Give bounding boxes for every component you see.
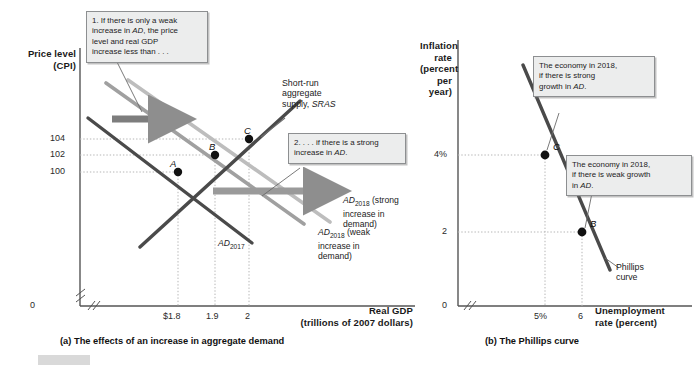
callout1-line2-pre: increase in bbox=[92, 26, 132, 35]
ad-strong-rest2: increase in bbox=[343, 209, 399, 219]
callout2-line2: increase in AD. bbox=[294, 148, 400, 158]
callout-weak-increase: 1. If there is only a weak increase in A… bbox=[86, 11, 208, 63]
callout3-line3: growth in AD. bbox=[539, 82, 649, 92]
label-phillips-curve: Phillips curve bbox=[616, 262, 644, 283]
x-title-line1: Real GDP bbox=[268, 305, 413, 317]
ad-weak-rest3: demand) bbox=[318, 251, 370, 261]
b-y-title-line3: (percent bbox=[420, 63, 452, 75]
leader-sras bbox=[261, 118, 285, 137]
callout3-line3-it: AD bbox=[573, 82, 584, 91]
point-a bbox=[174, 168, 182, 176]
point-c bbox=[245, 135, 253, 143]
ad-weak-rest2: increase in bbox=[318, 241, 370, 251]
label-point-a: A bbox=[170, 158, 176, 169]
callout1-line2: increase in AD, the price bbox=[92, 26, 202, 36]
callout1-line2-post: , the price bbox=[143, 26, 178, 35]
x-title-line2: (trillions of 2007 dollars) bbox=[268, 317, 413, 329]
ad2017-it: AD bbox=[218, 238, 230, 248]
callout4-line1: The economy in 2018, bbox=[572, 160, 686, 170]
caption-a-text: The effects of an increase in aggregate … bbox=[74, 336, 284, 346]
panel-b-x-axis-title: Unemployment rate (percent) bbox=[595, 305, 695, 328]
b-y-title-line1: Inflation bbox=[420, 40, 452, 52]
caption-a-lead: (a) bbox=[60, 336, 71, 346]
point-b-b bbox=[578, 228, 587, 237]
sras-line3-pre: supply, bbox=[282, 99, 312, 109]
point-b bbox=[211, 151, 219, 159]
callout1-line1: 1. If there is only a weak bbox=[92, 16, 202, 26]
callout1-line3: level and real GDP bbox=[92, 37, 202, 47]
x-tick-19: 1.9 bbox=[206, 311, 219, 321]
panel-aggregate-demand: Price level (CPI) Real GDP (trillions of… bbox=[0, 0, 420, 372]
b-x-tick-5: 5% bbox=[534, 311, 547, 321]
origin-label-b: 0 bbox=[442, 300, 447, 310]
b-x-title-line1: Unemployment bbox=[595, 305, 695, 317]
ad-weak-line1: AD2018 (weak bbox=[318, 227, 370, 241]
curve-ad2017 bbox=[88, 118, 252, 243]
sras-line1: Short-run bbox=[282, 78, 336, 88]
y-tick-102: 102 bbox=[50, 149, 65, 159]
ad2017-sub: 2017 bbox=[230, 243, 245, 250]
panel-a-x-axis-title: Real GDP (trillions of 2007 dollars) bbox=[268, 305, 413, 328]
b-y-tick-2: 2 bbox=[442, 226, 447, 236]
callout2-line2-pre: increase in bbox=[294, 148, 334, 157]
caption-panel-a: (a) The effects of an increase in aggreg… bbox=[60, 336, 284, 346]
origin-label-a: 0 bbox=[30, 300, 35, 310]
callout3-line3-pre: growth in bbox=[539, 82, 573, 91]
point-c-b bbox=[541, 151, 550, 160]
callout3-line1: The economy in 2018, bbox=[539, 61, 649, 71]
y-title-line2: (CPI) bbox=[14, 60, 76, 72]
label-ad2018-strong: AD2018 (strong increase in demand) bbox=[343, 195, 399, 229]
axes-a bbox=[76, 48, 415, 310]
label-ad2018-weak: AD2018 (weak increase in demand) bbox=[318, 227, 370, 261]
b-y-tick-4: 4% bbox=[434, 149, 447, 159]
sras-line3: supply, SRAS bbox=[282, 99, 336, 109]
ad-weak-it: AD bbox=[318, 227, 330, 237]
b-y-title-line2: rate bbox=[420, 52, 452, 64]
sras-line2: aggregate bbox=[282, 88, 336, 98]
ad-strong-sub: 2018 bbox=[355, 200, 370, 207]
b-x-title-line2: rate (percent) bbox=[595, 317, 695, 329]
panel-b-y-axis-title: Inflation rate (percent per year) bbox=[420, 40, 452, 98]
callout3-line2: if there is strong bbox=[539, 71, 649, 81]
ad-strong-line1: AD2018 (strong bbox=[343, 195, 399, 209]
callout-strong-increase: 2. . . . if there is a strong increase i… bbox=[288, 133, 406, 164]
caption-b-text: The Phillips curve bbox=[499, 336, 579, 346]
panel-a-y-axis-title: Price level (CPI) bbox=[14, 48, 76, 71]
caption-panel-b: (b) The Phillips curve bbox=[485, 336, 579, 346]
callout4-line3-it: AD bbox=[580, 181, 591, 190]
caption-b-lead: (b) bbox=[485, 336, 497, 346]
x-tick-2: 2 bbox=[245, 311, 250, 321]
ad-weak-rest1: (weak bbox=[345, 227, 370, 237]
y-tick-100: 100 bbox=[50, 166, 65, 176]
ad-weak-sub: 2018 bbox=[330, 232, 345, 239]
callout-strong-growth: The economy in 2018, if there is strong … bbox=[533, 56, 655, 97]
sras-line3-italic: SRAS bbox=[312, 99, 336, 109]
callout1-line4: increase less than . . . bbox=[92, 47, 202, 57]
label-ad2017: AD2017 bbox=[218, 238, 245, 252]
y-tick-104: 104 bbox=[50, 133, 65, 143]
callout-weak-growth: The economy in 2018, if there is weak gr… bbox=[566, 155, 692, 196]
guide-lines-b bbox=[458, 155, 582, 306]
ad-strong-rest1: (strong bbox=[370, 195, 399, 205]
callout3-line3-post: . bbox=[584, 82, 586, 91]
b-label-point-b: B bbox=[590, 218, 596, 229]
phillips-line2: curve bbox=[616, 272, 644, 282]
callout4-line3-post: . bbox=[591, 181, 593, 190]
callout4-line3: in AD. bbox=[572, 181, 686, 191]
ad-strong-it: AD bbox=[343, 195, 355, 205]
callout1-line2-it: AD bbox=[132, 26, 143, 35]
y-title-line1: Price level bbox=[14, 48, 76, 60]
figure-swatch bbox=[38, 355, 90, 365]
b-label-point-c: C bbox=[553, 141, 560, 152]
phillips-line1: Phillips bbox=[616, 262, 644, 272]
b-y-title-line4: per year) bbox=[420, 75, 452, 98]
label-point-c: C bbox=[244, 125, 251, 136]
b-x-tick-6: 6 bbox=[578, 311, 583, 321]
callout2-line2-post: . bbox=[345, 148, 347, 157]
panel-phillips-curve: Inflation rate (percent per year) Unempl… bbox=[420, 0, 700, 372]
label-point-b: B bbox=[209, 141, 215, 152]
label-sras: Short-run aggregate supply, SRAS bbox=[282, 78, 336, 109]
callout2-line2-it: AD bbox=[334, 148, 345, 157]
callout4-line2: if there is weak growth bbox=[572, 170, 686, 180]
callout2-line1: 2. . . . if there is a strong bbox=[294, 138, 400, 148]
